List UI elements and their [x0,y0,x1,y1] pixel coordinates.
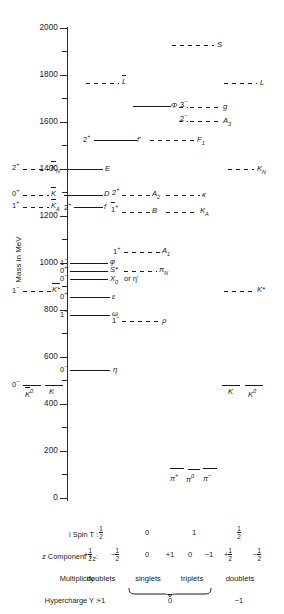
jp-label-0-minus-K: 0− [12,378,20,388]
jp-superscript-plus-A2: + [116,186,119,192]
level-line-phi-small [70,263,108,264]
level-line-2minus-tick [179,121,188,122]
jp-superscript-plus-E: + [16,161,19,167]
jp-label-2-plus-A2: 2+ [112,186,120,196]
level-label-KA: KA [200,207,209,218]
level-line-S-star [70,271,108,272]
y-tick-label-400: 400 [22,400,58,408]
jp-superscript-minus-rho: − [116,314,119,320]
y-tick-label-1800: 1800 [22,71,58,79]
y-tick-400 [60,404,67,405]
jp-label-2-plus-E: 2+ [12,161,20,171]
level-label-K0-bar: K0 [25,388,33,398]
level-line-E [68,169,103,170]
level-line-B [122,212,150,213]
cell-multiplicity-singlets: singlets [128,575,168,583]
level-line-K-star-bar [23,291,51,292]
level-line-epsilon [70,297,110,298]
level-label-KN-sub: N [262,169,266,175]
level-line-KN-bar [23,169,49,170]
level-line-A1 [124,252,160,253]
level-line-K [222,385,240,386]
level-line-3minus-tick [179,107,188,108]
level-label-A3-sub: 3 [228,121,231,127]
level-line-S [172,45,214,46]
level-line-phi-capital [133,106,171,107]
y-tick-200 [60,451,67,452]
jp-superscript-plus-f2: + [68,201,71,207]
level-label-L: L [260,79,264,87]
level-line-f [74,207,103,208]
level-label-F1: F1 [197,136,205,147]
level-label-A3: A3 [223,117,231,128]
y-tick-1800 [60,75,67,76]
fraction-one-half-ispin-right: 1 2 [237,526,241,541]
level-label-KN-bar: KN [51,164,60,175]
level-label-X0: X0 [110,275,118,286]
jp-label-1-plus-B: 1+ [111,203,119,213]
cell-tz-triplet-zero: 0 [181,551,199,559]
y-tick-label-1000: 1000 [22,259,58,267]
quantum-number-table: i Spin T : z Component TZ: Multiplicity … [0,506,284,606]
fraction-half-tz8: 12 [257,548,261,563]
cell-tz-plus-half-right: +12 [214,548,242,563]
jp-superscript-plus-Sstar: + [64,264,67,270]
level-line-g [190,107,220,108]
cell-multiplicity-doublets-left: doublets [80,575,122,583]
fraction-half-tz1: 12 [88,548,92,563]
jp-superscript-plus-B: + [115,203,118,209]
level-line-KA-bar [23,207,49,208]
jp-superscript-plus-epsilon: + [64,290,67,296]
cell-tz-minus-half-left: −12 [101,548,129,563]
level-label-f-prime: f' [137,136,141,144]
level-label-KA-sub: A [205,211,209,217]
jp-label-0-plus-D: 0+ [12,187,20,197]
level-label-K-bar-498: K [49,388,54,396]
level-line-K-bar-1285 [23,195,49,196]
level-line-pi-N [124,271,157,272]
level-label-rho: ρ [162,317,166,325]
jp-label-1-plus-A1: 1+ [113,245,121,255]
jp-label-0-minus-X0: 0− [60,272,68,282]
level-label-K: K [228,388,233,396]
level-line-X0 [70,279,108,280]
cell-tz-singlets: 0 [133,551,161,559]
level-label-KA-bar: KA [51,202,60,213]
level-line-A2 [122,195,150,196]
level-line-L [224,83,257,84]
jp-superscript-minus-X0: − [64,272,67,278]
jp-label-1-minus-Kstar: 1− [12,284,20,294]
level-label-eta: η [113,366,117,374]
y-tick-minor-500 [62,380,67,381]
mass-level-diagram: Mass in MeV 2000 1800 1600 1400 1200 100… [0,0,284,614]
level-label-pi-minus: π− [203,472,211,482]
level-label-A2-sub: 2 [157,194,160,200]
level-label-A1: A1 [162,247,170,258]
level-label-L-bar: L [122,78,126,86]
level-label-S: S [217,41,222,49]
cell-multiplicity-doublets-right: doublets [219,575,261,583]
level-label-g: g [223,103,227,111]
y-tick-label-800: 800 [22,306,58,314]
fraction-half-tz7: 12 [228,548,232,563]
level-line-pi-minus [203,468,217,469]
level-label-pi-plus-sup: + [175,472,178,478]
level-label-S-star: S* [110,266,118,274]
jp-superscript-plus-A1: + [117,245,120,251]
level-line-pi-plus [170,468,184,469]
y-tick-600 [60,357,67,358]
jp-label-1-minus-rho: 1− [112,314,120,324]
level-line-KA [166,212,198,213]
cell-multiplicity-triplets: triplets [172,575,212,583]
y-tick-label-0: 0 [22,494,58,502]
level-line-K-star [224,291,254,292]
jp-superscript-minus-omega: − [64,308,67,314]
cell-ispin-triplets: 1 [180,529,208,537]
cell-tz-triplet-plus1: +1 [159,551,181,559]
cell-hypercharge-minus1: −1 [224,597,254,605]
level-label-A1-sub: 1 [167,251,170,257]
cell-ispin-doublets-left: 1 2 [86,526,116,541]
level-label-X0-sub: 0 [115,279,118,285]
level-label-pi-zero-sup: 0 [191,473,194,479]
jp-superscript-plus-D: + [16,187,19,193]
